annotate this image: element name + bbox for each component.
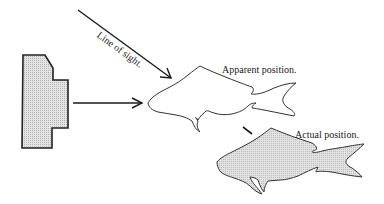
horizontal-arrow: [73, 98, 142, 108]
actual-position-label: Actual position.: [295, 130, 359, 140]
diagram-svg: [0, 0, 384, 204]
apparent-position-label: Apparent position.: [222, 65, 296, 75]
line-of-sight-arrow: [78, 10, 171, 78]
observer-block: [22, 55, 68, 148]
refraction-dash: [243, 127, 252, 134]
diagram-canvas: Line of sight. Apparent position. Actual…: [0, 0, 384, 204]
